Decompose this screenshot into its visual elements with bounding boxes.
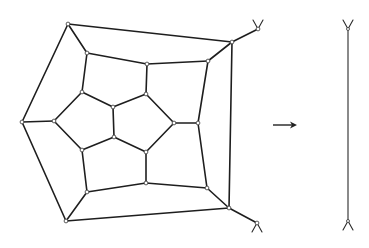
graph-edge: [229, 208, 257, 223]
graph-vertex: [172, 121, 176, 125]
graph-vertex: [255, 221, 259, 225]
graph-vertex: [144, 150, 148, 154]
graph-edge: [146, 123, 174, 152]
graph-edge: [198, 61, 208, 123]
graph-vertex: [85, 190, 89, 194]
graph-edge: [68, 24, 232, 42]
graph-vertex: [196, 121, 200, 125]
graph-edge: [146, 64, 147, 94]
result-segment: [343, 20, 353, 230]
transformation-arrow-icon: [273, 122, 297, 129]
graph-vertex: [144, 92, 148, 96]
result-vertex: [347, 28, 350, 31]
graph-edge: [22, 24, 68, 122]
graph-vertex: [80, 148, 84, 152]
graph-edge: [87, 183, 146, 192]
graph-vertex: [112, 135, 116, 139]
graph-edge: [66, 192, 87, 221]
graph-edge: [54, 121, 82, 150]
graph-edge: [146, 94, 174, 123]
graph-edge: [207, 188, 229, 208]
graph-vertex: [85, 51, 89, 55]
graph-edge: [22, 122, 66, 221]
graph-vertex: [205, 186, 209, 190]
graph-edge: [68, 24, 87, 53]
pendant-half-edges: [252, 20, 263, 232]
graph-edge: [114, 137, 146, 152]
graph-edge: [198, 123, 207, 188]
graph-edge: [22, 121, 54, 122]
graph-vertex: [80, 90, 84, 94]
graph-vertex: [64, 219, 68, 223]
graph-edge: [66, 208, 229, 221]
graph-vertex: [227, 206, 231, 210]
graph-edge: [232, 29, 258, 42]
graph-vertex: [66, 22, 70, 26]
graph-edge: [208, 42, 232, 61]
graph-edge: [82, 92, 113, 107]
graph-edge: [146, 183, 207, 188]
graph-vertex: [20, 120, 24, 124]
graph-vertex: [144, 181, 148, 185]
graph-edge: [82, 150, 87, 192]
graph-vertex: [256, 27, 260, 31]
graph-transformation-diagram: [0, 0, 369, 248]
graph-vertex: [206, 59, 210, 63]
graph-edge: [229, 42, 232, 208]
graph-edge: [113, 107, 114, 137]
graph-edge: [113, 94, 146, 107]
graph-vertex: [52, 119, 56, 123]
graph-edge: [54, 92, 82, 121]
graph-vertex: [145, 62, 149, 66]
graph-edge: [87, 53, 147, 64]
graph-edge: [147, 61, 208, 64]
graph-edge: [82, 53, 87, 92]
graph-vertex: [111, 105, 115, 109]
graph-edges: [22, 24, 258, 223]
graph-vertex: [230, 40, 234, 44]
graph-edge: [82, 137, 114, 150]
result-vertex: [347, 220, 350, 223]
